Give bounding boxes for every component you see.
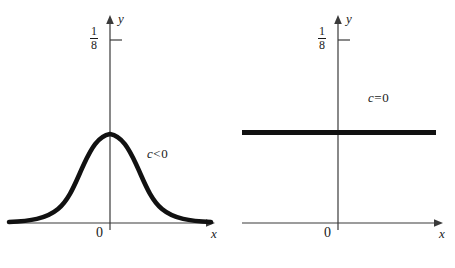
y-axis-arrowhead	[106, 15, 114, 24]
figure-pair: y x 0 1 8 c<0 y x	[0, 0, 455, 268]
fraction-denominator: 8	[90, 39, 98, 52]
origin-label: 0	[324, 226, 331, 240]
case-annotation-c-negative: c<0	[147, 147, 168, 160]
y-tick-label-one-eighth: 1 8	[318, 25, 326, 51]
x-axis-label: x	[211, 227, 217, 240]
case-value: 0	[161, 146, 168, 161]
plot-panel-c-negative: y x 0 1 8 c<0	[0, 0, 227, 268]
plot-axes-and-curve-c-negative	[0, 0, 227, 268]
plot-panel-c-zero: y x 0 1 8 c=0	[228, 0, 455, 268]
fraction-numerator: 1	[318, 25, 326, 38]
fraction-numerator: 1	[90, 25, 98, 38]
y-axis-label: y	[118, 12, 124, 25]
y-axis-arrowhead	[334, 15, 342, 24]
y-axis-label: y	[346, 12, 352, 25]
case-value: 0	[382, 90, 389, 105]
case-annotation-c-zero: c=0	[368, 91, 389, 104]
y-tick-label-one-eighth: 1 8	[90, 25, 98, 51]
case-operator: <	[153, 146, 161, 161]
plot-axes-and-curve-c-zero	[228, 0, 455, 268]
origin-label: 0	[96, 226, 103, 240]
x-axis-label: x	[439, 227, 445, 240]
fraction-denominator: 8	[318, 39, 326, 52]
case-operator: =	[374, 90, 382, 105]
